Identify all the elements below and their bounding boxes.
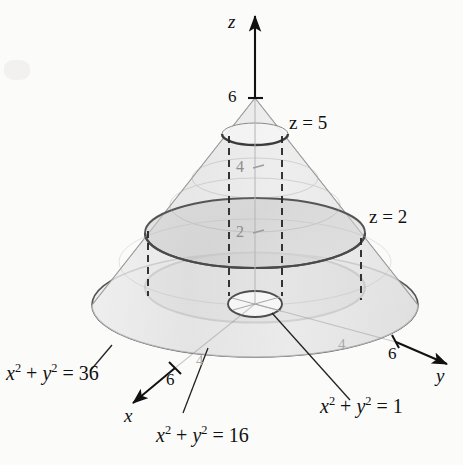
z-axis-label: z [228,12,235,31]
z-tick-6-label: 6 [228,88,237,105]
plane-label-z5: z = 5 [289,113,327,132]
z-tick-2-label: 2 [236,224,244,240]
equation-top-circle: x2 + y2 = 1 [320,396,403,416]
y-tick-6-label: 6 [388,345,397,362]
x-tick-6-label: 6 [166,371,175,388]
equation-middle-value: 16 [229,424,249,446]
y-tick-4-label: 4 [338,337,346,352]
equation-base-circle: x2 + y2 = 36 [6,363,99,383]
y-axis [392,335,447,364]
y-axis-label: y [436,366,444,385]
figure-root: z 6 4 2 z = 5 z = 2 x 6 4 y 6 4 x2 + y2 … [0,0,463,465]
equation-base-value: 36 [79,362,99,384]
equation-middle-circle: x2 + y2 = 16 [156,425,249,445]
equation-top-value: 1 [393,395,403,417]
plane-label-z2: z = 2 [369,207,407,226]
z-tick-4-label: 4 [236,159,244,175]
x-tick-4-label: 4 [196,353,204,368]
x-axis-label: x [124,406,132,425]
